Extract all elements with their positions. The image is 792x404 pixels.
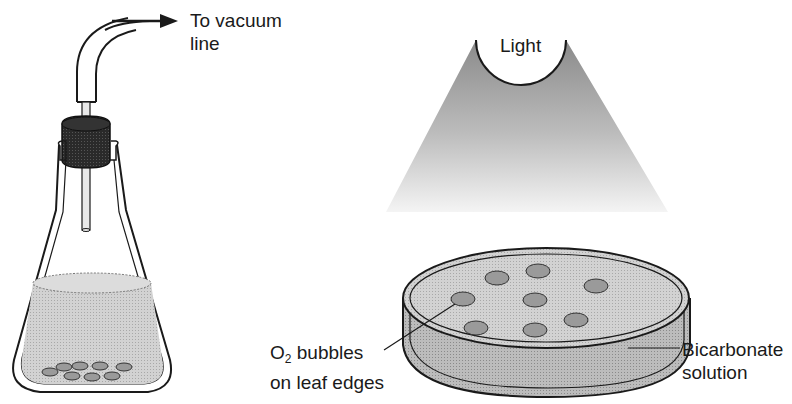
o2-label-line-2: on leaf edges xyxy=(270,371,384,394)
light-source xyxy=(386,30,668,212)
vacuum-label: To vacuum line xyxy=(190,9,282,55)
diagram-svg xyxy=(0,0,792,404)
leaf-disk xyxy=(104,372,120,380)
petri-dish xyxy=(384,248,690,397)
erlenmeyer-flask xyxy=(13,141,171,392)
leaf-disk xyxy=(92,362,108,370)
leaf-disk xyxy=(72,362,88,370)
bicarbonate-label-line-1: Bicarbonate xyxy=(682,338,783,361)
rubber-stopper xyxy=(62,116,110,168)
leaf-disk xyxy=(42,368,58,376)
arrow-to-vacuum-icon xyxy=(112,14,178,28)
leaf-disk xyxy=(523,323,547,337)
o2-bubbles-label: O2 bubbles on leaf edges xyxy=(270,341,384,394)
bicarbonate-label-line-2: solution xyxy=(682,361,783,384)
diagram-canvas: To vacuum line Light O2 bubbles on leaf … xyxy=(0,0,792,404)
o2-label-rest: bubbles xyxy=(291,342,363,363)
o2-symbol: O xyxy=(270,342,285,363)
leaf-disk xyxy=(526,264,550,278)
vacuum-label-line-2: line xyxy=(190,32,282,55)
leaf-disk xyxy=(84,373,100,381)
light-label: Light xyxy=(500,34,541,57)
leaf-disk xyxy=(584,279,608,293)
leaf-disk xyxy=(116,363,132,371)
bicarbonate-label: Bicarbonate solution xyxy=(682,338,783,384)
leaf-disk xyxy=(523,293,547,307)
leaf-disk xyxy=(464,321,488,335)
vacuum-flask xyxy=(13,14,178,392)
leaf-disk xyxy=(56,363,72,371)
vacuum-tube xyxy=(77,18,150,102)
glass-tube-lower xyxy=(82,168,90,230)
o2-label-line-1: O2 bubbles xyxy=(270,341,384,371)
leaf-disk xyxy=(64,372,80,380)
vacuum-label-line-1: To vacuum xyxy=(190,9,282,32)
leaf-disk xyxy=(564,313,588,327)
leaf-disk xyxy=(485,271,509,285)
